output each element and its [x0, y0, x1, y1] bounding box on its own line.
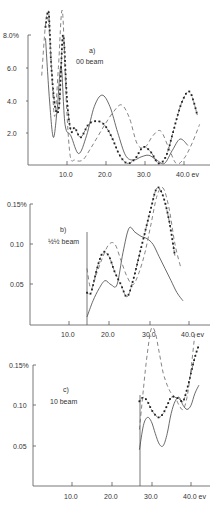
data-marker [133, 160, 135, 162]
panel-c-x-tick: 20.0 [104, 493, 118, 500]
data-marker [145, 398, 147, 400]
series-dashed-line [87, 187, 181, 288]
data-marker [77, 134, 79, 136]
data-marker [136, 156, 138, 158]
series-dashed-line [139, 327, 195, 429]
data-marker [150, 152, 152, 154]
data-marker [69, 127, 71, 129]
panel-a-beam-label: 00 beam [76, 58, 103, 65]
data-marker [165, 406, 167, 408]
data-marker [73, 127, 75, 129]
data-marker [139, 251, 141, 253]
data-marker [150, 207, 152, 209]
data-marker [142, 242, 144, 244]
data-marker [60, 71, 62, 73]
panel-a-y-tick: 6.0 [7, 65, 17, 72]
data-marker [163, 199, 165, 201]
data-marker [107, 254, 109, 256]
data-marker [122, 158, 124, 160]
data-marker [158, 163, 160, 165]
data-marker [186, 390, 188, 392]
data-marker [170, 230, 172, 232]
data-marker [125, 295, 127, 297]
data-marker [137, 259, 139, 261]
data-marker [164, 157, 166, 159]
data-marker [169, 225, 171, 227]
data-marker [140, 246, 142, 248]
data-marker [161, 414, 163, 416]
data-marker [167, 402, 169, 404]
data-marker [172, 131, 174, 133]
data-marker [152, 198, 154, 200]
data-marker [61, 53, 63, 55]
data-marker [177, 397, 179, 399]
data-marker [168, 216, 170, 218]
panel-a-x-tick: 20.0 [98, 171, 112, 178]
data-marker [191, 94, 193, 96]
data-marker [51, 70, 53, 72]
data-marker [162, 161, 164, 163]
data-marker [192, 364, 194, 366]
data-marker [99, 121, 101, 123]
data-marker [48, 11, 50, 13]
data-marker [103, 123, 105, 125]
panel-c-beam-label: 10 beam [50, 398, 77, 405]
data-marker [109, 258, 111, 260]
panel-a-x-tick: 40.0 ev [176, 171, 199, 178]
panel-a-y-tick: 2.0 [7, 130, 17, 137]
data-marker [99, 258, 101, 260]
data-marker [60, 75, 62, 77]
data-marker [60, 66, 62, 68]
data-marker [75, 129, 77, 131]
data-marker [162, 194, 164, 196]
panel-c: 0.15% 0.10 0.05 10.0 20.0 30.0 40.0 ev c… [9, 327, 210, 500]
data-marker [193, 103, 195, 105]
panel-a-y-tick: 4.0 [7, 98, 17, 105]
data-marker [121, 287, 123, 289]
data-marker [108, 130, 110, 132]
data-marker [131, 285, 133, 287]
data-marker [178, 110, 180, 112]
data-marker [54, 101, 56, 103]
data-marker [105, 126, 107, 128]
data-marker [68, 114, 70, 116]
data-marker [147, 220, 149, 222]
data-marker [61, 57, 63, 59]
data-marker [149, 211, 151, 213]
panel-b-x-tick: 40.0 ev [181, 331, 204, 338]
data-marker [173, 127, 175, 129]
data-marker [143, 237, 145, 239]
data-marker [177, 114, 179, 116]
data-marker [111, 262, 113, 264]
panel-c-x-tick: 30.0 [144, 493, 158, 500]
data-marker [147, 148, 149, 150]
data-marker [165, 203, 167, 205]
data-marker [153, 155, 155, 157]
panel-c-y-tick: 0.10 [13, 402, 27, 409]
data-marker [98, 262, 100, 264]
data-marker [166, 153, 168, 155]
data-marker [115, 274, 117, 276]
data-marker [171, 238, 173, 240]
data-marker [147, 402, 149, 404]
data-marker [49, 43, 51, 45]
panel-a-y-top-label: 8.0% [3, 32, 19, 39]
data-marker [173, 247, 175, 249]
panel-c-label: c) [63, 386, 69, 394]
data-marker [188, 91, 190, 93]
data-marker [154, 414, 156, 416]
data-marker [176, 118, 178, 120]
data-marker [61, 48, 63, 50]
data-marker [48, 16, 50, 18]
data-marker [169, 398, 171, 400]
data-marker [117, 151, 119, 153]
data-marker [164, 410, 166, 412]
data-marker [174, 252, 176, 254]
data-marker [134, 272, 136, 274]
panel-c-x-tick: 40.0 ev [183, 493, 206, 500]
data-marker [194, 355, 196, 357]
panel-b-beam-label: ½½ beam [48, 238, 79, 245]
data-marker [158, 187, 160, 189]
data-marker [167, 212, 169, 214]
data-marker [171, 234, 173, 236]
